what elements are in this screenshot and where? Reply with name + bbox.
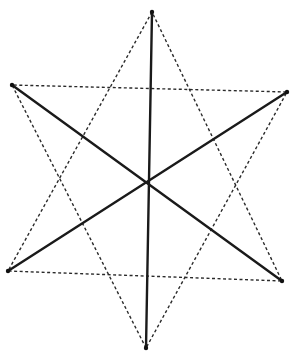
vertex-lower_right <box>280 279 284 283</box>
vertex-lower_left <box>6 269 10 273</box>
dashed-triangle-1 <box>8 12 282 281</box>
vertex-upper_left <box>10 83 14 87</box>
vertex-upper_right <box>285 90 289 94</box>
vertex-bottom <box>144 346 148 350</box>
solid-axes <box>8 12 287 348</box>
star-diagram <box>0 0 297 352</box>
vertex-top <box>150 10 154 14</box>
